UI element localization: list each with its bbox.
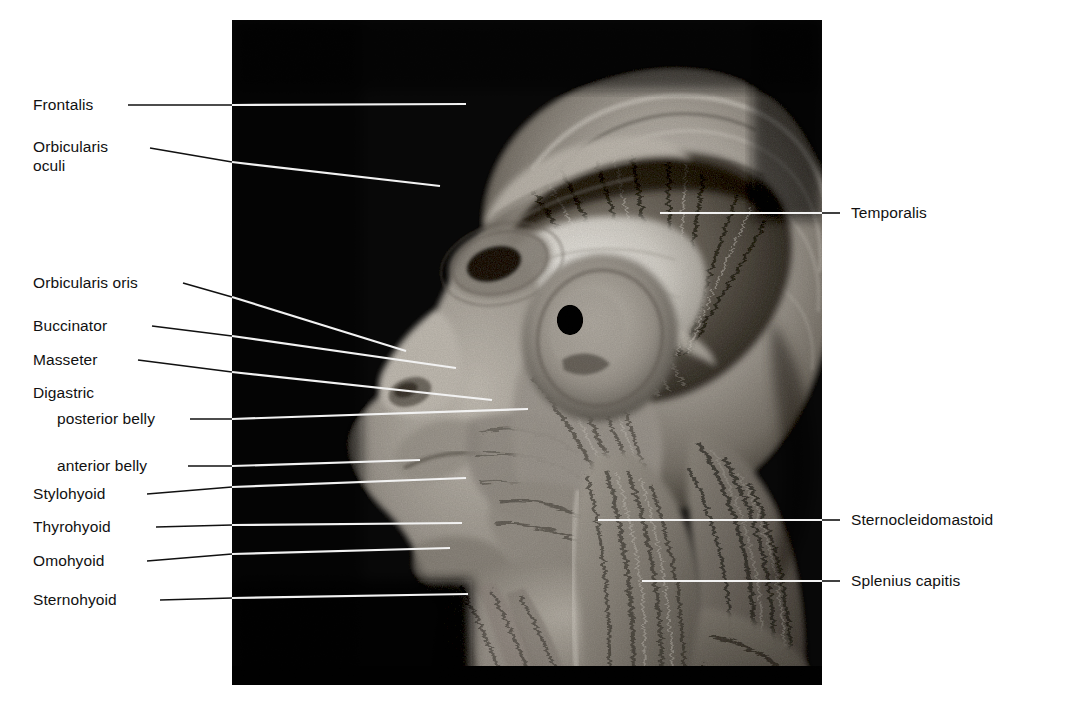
label-sternocleidomastoid: Sternocleidomastoid bbox=[851, 510, 993, 529]
label-temporalis: Temporalis bbox=[851, 203, 927, 222]
dissection-photograph bbox=[232, 20, 822, 685]
leader-sternohyoid-outer bbox=[160, 598, 232, 600]
leader-masseter-outer bbox=[138, 360, 232, 372]
top-right-vignette bbox=[752, 20, 822, 220]
leader-thyrohyoid-outer bbox=[156, 525, 232, 527]
photograph-canvas bbox=[232, 20, 822, 685]
label-thyrohyoid: Thyrohyoid bbox=[33, 517, 111, 536]
label-stylohyoid: Stylohyoid bbox=[33, 484, 106, 503]
label-posterior-belly: posterior belly bbox=[57, 409, 155, 428]
label-anterior-belly: anterior belly bbox=[57, 456, 147, 475]
anatomical-figure: Frontalis Orbicularis oculi Orbicularis … bbox=[0, 0, 1066, 705]
label-masseter: Masseter bbox=[33, 350, 98, 369]
label-digastric: Digastric bbox=[33, 383, 94, 402]
bottom-edge-band bbox=[232, 666, 822, 685]
external-acoustic-meatus bbox=[557, 305, 583, 335]
label-splenius-capitis: Splenius capitis bbox=[851, 571, 960, 590]
label-orbicularis-oris: Orbicularis oris bbox=[33, 273, 138, 292]
leader-orbicularis-oculi-outer bbox=[150, 148, 232, 162]
leader-buccinator-outer bbox=[152, 326, 232, 336]
label-sternohyoid: Sternohyoid bbox=[33, 590, 117, 609]
leader-stylohyoid-outer bbox=[147, 487, 232, 494]
leader-omohyoid-outer bbox=[147, 554, 232, 561]
top-vignette bbox=[232, 20, 822, 90]
label-omohyoid: Omohyoid bbox=[33, 551, 104, 570]
label-frontalis: Frontalis bbox=[33, 95, 93, 114]
label-buccinator: Buccinator bbox=[33, 316, 107, 335]
leader-orbicularis-oris-outer bbox=[183, 283, 232, 297]
label-orbicularis-oculi-l2: oculi bbox=[33, 156, 65, 175]
label-orbicularis-oculi-l1: Orbicularis bbox=[33, 137, 108, 156]
